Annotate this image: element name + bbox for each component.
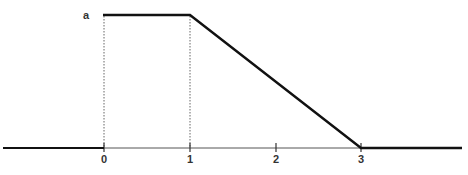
trapezoid-diagram: a 0 1 2 3 xyxy=(0,0,468,175)
tick-label-3: 3 xyxy=(358,153,364,165)
tick-label-0: 0 xyxy=(101,153,107,165)
tick-label-1: 1 xyxy=(187,153,193,165)
tick-label-2: 2 xyxy=(273,153,279,165)
label-a: a xyxy=(83,9,90,21)
function-curve-top xyxy=(103,15,462,148)
